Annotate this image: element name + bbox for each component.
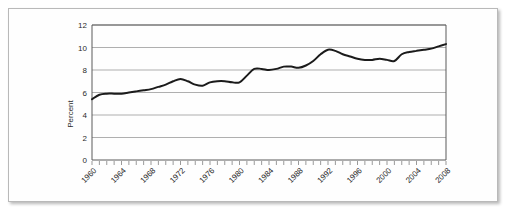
- x-tick-label: 1968: [138, 166, 157, 185]
- y-axis-title-text: Percent: [66, 99, 75, 127]
- line-chart: 024681012 Percent 1960196419681972197619…: [9, 9, 499, 203]
- data-series-group: [92, 44, 446, 99]
- x-tick-label: 1988: [286, 166, 305, 185]
- y-tick-label: 10: [78, 44, 87, 53]
- y-tick-label: 12: [78, 21, 87, 30]
- x-tick-label: 1980: [227, 166, 246, 185]
- y-tick-label: 6: [83, 89, 88, 98]
- x-tick-label: 1996: [345, 166, 364, 185]
- x-tick-label: 1976: [197, 166, 216, 185]
- chart-svg: 024681012 Percent 1960196419681972197619…: [9, 9, 499, 203]
- data-line-percent: [92, 44, 446, 99]
- x-tick-label: 1972: [168, 166, 187, 185]
- y-tick-label: 8: [83, 66, 88, 75]
- y-axis-title: Percent: [66, 99, 75, 127]
- figure-frame: 024681012 Percent 1960196419681972197619…: [8, 8, 498, 202]
- x-tick-label: 2008: [433, 166, 452, 185]
- y-tick-label: 2: [83, 134, 88, 143]
- x-tick-label: 2000: [374, 166, 393, 185]
- gridlines: [92, 25, 446, 138]
- y-tick-label: 0: [83, 156, 88, 165]
- x-axis-tick-marks: [92, 161, 446, 165]
- x-tick-label: 1992: [315, 166, 334, 185]
- x-tick-label: 1984: [256, 166, 275, 185]
- x-tick-label: 2004: [404, 166, 423, 185]
- x-tick-label: 1960: [79, 166, 98, 185]
- y-tick-label: 4: [83, 111, 88, 120]
- x-axis-tick-labels: 1960196419681972197619801984198819921996…: [79, 166, 452, 185]
- y-axis-tick-labels: 024681012: [78, 21, 87, 165]
- x-tick-label: 1964: [109, 166, 128, 185]
